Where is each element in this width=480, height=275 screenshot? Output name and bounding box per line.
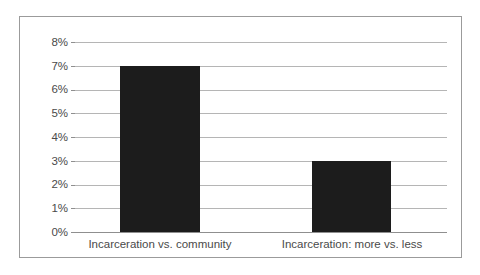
y-axis-tick-label-3: 3% [26,155,68,167]
y-axis-tick-label-8: 8% [26,36,68,48]
bar-incarceration-more-vs-less [312,161,391,232]
bar-incarceration-vs-community [120,66,200,232]
chart-figure: 8% 7% 6% 5% 4% 3% 2% 1% 0% Incarceration… [0,0,480,275]
y-axis-tick-label-2: 2% [26,178,68,190]
y-axis-tick-label-5: 5% [26,107,68,119]
plot-area [75,42,447,232]
y-axis-tick-label-4: 4% [26,131,68,143]
gridline-8 [75,42,447,43]
category-label-incarceration-more-vs-less: Incarceration: more vs. less [232,238,472,251]
y-axis-tick-label-1: 1% [26,202,68,214]
y-axis-tick-label-7: 7% [26,60,68,72]
y-axis-tick-label-6: 6% [26,83,68,95]
gridline-0-baseline [75,232,447,233]
y-axis-tick-label-0: 0% [26,226,68,238]
